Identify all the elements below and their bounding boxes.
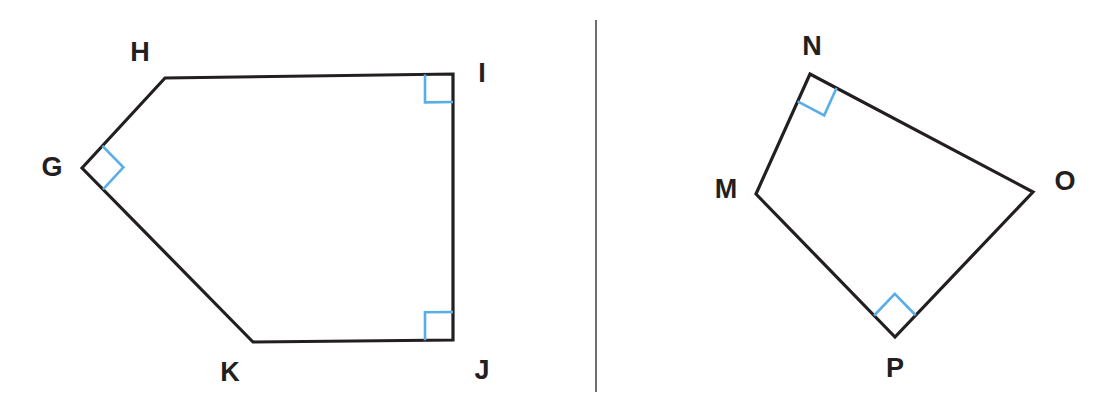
right-angle-mark-j xyxy=(425,312,453,340)
right-angle-mark-i xyxy=(425,74,453,102)
figure-right-group xyxy=(756,74,1033,337)
vertex-label-k: K xyxy=(220,359,240,386)
pentagon-ghijk-outline xyxy=(82,74,453,342)
geometry-svg xyxy=(0,0,1112,418)
vertex-label-j: J xyxy=(474,357,489,384)
vertex-label-n: N xyxy=(802,33,822,60)
vertex-label-i: I xyxy=(478,60,486,87)
right-angle-mark-g xyxy=(102,146,123,189)
vertex-label-g: G xyxy=(41,154,62,181)
right-angle-mark-p xyxy=(874,294,916,316)
vertex-label-o: O xyxy=(1054,168,1075,195)
vertex-label-p: P xyxy=(886,355,904,382)
vertex-label-h: H xyxy=(130,39,150,66)
quadrilateral-mnop-outline xyxy=(756,74,1033,337)
geometry-figures-canvas: GHIJKMNOP xyxy=(0,0,1112,418)
vertex-label-m: M xyxy=(715,176,738,203)
figure-left-group xyxy=(82,74,453,342)
